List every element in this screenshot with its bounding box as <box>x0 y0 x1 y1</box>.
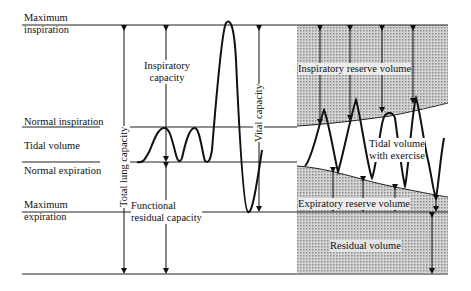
label-maximum-expiration: Maximum expiration <box>24 199 68 223</box>
label-line: Maximum <box>24 12 69 24</box>
label-line: with exercise <box>369 150 425 162</box>
label-line: Inspiratory <box>144 60 190 72</box>
label-expiratory-reserve-volume: Expiratory reserve volume <box>298 198 410 210</box>
label-maximum-inspiration: Maximum inspiration <box>24 12 69 36</box>
label-inspiratory-reserve-volume: Inspiratory reserve volume <box>298 63 411 75</box>
label-line: Maximum <box>24 199 68 211</box>
label-line: residual capacity <box>131 212 202 224</box>
label-functional-residual-capacity: Functional residual capacity <box>131 200 202 224</box>
breathing-trace <box>137 21 262 212</box>
label-residual-volume: Residual volume <box>330 240 401 252</box>
label-normal-inspiration: Normal inspiration <box>24 116 104 128</box>
label-tidal-volume-with-exercise: Tidal volume with exercise <box>369 138 425 162</box>
label-total-lung-capacity: Total lung capacity <box>118 126 129 208</box>
lung-volume-diagram: Maximum inspiration Normal inspiration T… <box>0 0 471 291</box>
label-line: inspiration <box>24 24 69 36</box>
label-line: Functional <box>131 200 202 212</box>
label-line: Tidal volume <box>369 138 425 150</box>
label-line: expiration <box>24 211 68 223</box>
label-line: capacity <box>144 72 190 84</box>
label-normal-expiration: Normal expiration <box>24 165 101 177</box>
label-inspiratory-capacity: Inspiratory capacity <box>144 60 190 84</box>
label-vital-capacity: Vital capacity <box>253 84 264 142</box>
label-tidal-volume: Tidal volume <box>24 140 80 152</box>
